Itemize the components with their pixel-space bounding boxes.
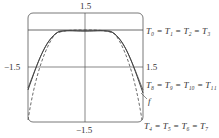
curve-f <box>28 31 143 93</box>
t0-label: T₀ = T₁ = T₂ = T₃ <box>146 27 210 36</box>
f-label: f <box>148 97 151 106</box>
x-left-tick: −1.5 <box>4 63 20 72</box>
viewing-window <box>28 13 143 122</box>
x-right-tick: 1.5 <box>146 63 157 72</box>
curve-t8 <box>28 31 143 90</box>
y-bottom-tick: −1.5 <box>76 126 92 135</box>
taylor-graph <box>0 0 219 138</box>
t4-label: T₄ = T₅ = T₆ = T₇ <box>144 122 208 131</box>
y-top-tick: 1.5 <box>80 2 91 11</box>
t8-label: T₈ = T₉ = T₁₀ = T₁₁ <box>146 81 217 90</box>
f-leader <box>141 93 147 99</box>
